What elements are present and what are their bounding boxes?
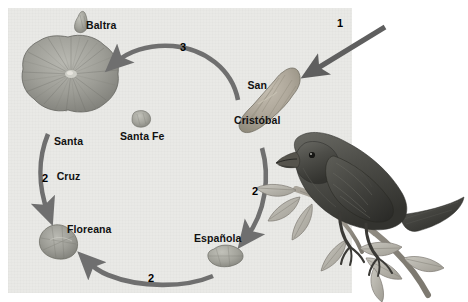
labels-layer: Baltra Santa Cruz Santa Fe San Cristóbal… [0,0,468,302]
santa-cruz-line-2: Cruz [54,171,83,183]
san-cristobal-line-1: San [234,80,280,92]
arrow-number-1: 1 [337,17,343,29]
arrow-number-2-right: 2 [252,185,258,197]
island-label-santa-fe: Santa Fe [120,131,165,143]
island-label-floreana: Floreana [67,224,112,236]
arrow-number-2-bottom: 2 [148,272,154,284]
island-label-espanola: Española [194,233,241,245]
arrow-number-2-left: 2 [42,172,48,184]
island-label-santa-cruz: Santa Cruz [54,113,83,205]
santa-cruz-line-1: Santa [54,136,83,148]
arrow-number-3-top: 3 [180,41,186,53]
island-label-baltra: Baltra [86,20,116,32]
san-cristobal-line-2: Cristóbal [234,115,280,127]
figure-canvas: Baltra Santa Cruz Santa Fe San Cristóbal… [0,0,468,302]
island-label-san-cristobal: San Cristóbal [234,57,280,149]
